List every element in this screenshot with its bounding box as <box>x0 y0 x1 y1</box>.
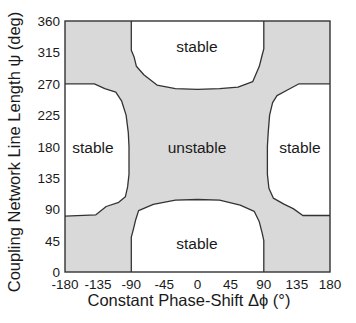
y-tick-label: 225 <box>37 108 60 123</box>
x-tick-label: 45 <box>223 277 238 292</box>
y-tick-label: 315 <box>37 45 60 60</box>
x-tick-label: 90 <box>256 277 271 292</box>
x-tick-label: 135 <box>286 277 309 292</box>
y-axis-ticks: 04590135180225270315360 <box>37 14 60 280</box>
region-label-unstable-center: unstable <box>168 139 227 156</box>
y-tick-label: 270 <box>37 77 60 92</box>
y-tick-label: 45 <box>45 234 60 249</box>
stable-region-top-center <box>131 21 263 89</box>
x-tick-label: -135 <box>85 277 112 292</box>
x-tick-label: 0 <box>194 277 202 292</box>
y-axis-label: Coupling Network Line Length ψ (deg) <box>5 12 23 293</box>
x-tick-label: -90 <box>121 277 141 292</box>
x-tick-label: 180 <box>319 277 342 292</box>
y-tick-label: 135 <box>37 171 60 186</box>
region-label-stable-left: stable <box>72 139 113 156</box>
stability-map-chart: stable stable stable stable unstable 045… <box>0 0 356 323</box>
region-label-stable-top: stable <box>176 38 217 55</box>
y-tick-label: 90 <box>45 202 60 217</box>
x-tick-label: -180 <box>51 277 78 292</box>
x-axis-label: Constant Phase-Shift Δϕ (°) <box>88 291 291 309</box>
y-tick-label: 360 <box>37 14 60 29</box>
x-tick-label: -45 <box>155 277 175 292</box>
region-label-stable-bottom: stable <box>176 235 217 252</box>
x-axis-ticks: -180-135-90-4504590135180 <box>51 277 341 292</box>
region-label-stable-right: stable <box>279 139 320 156</box>
y-tick-label: 180 <box>37 140 60 155</box>
